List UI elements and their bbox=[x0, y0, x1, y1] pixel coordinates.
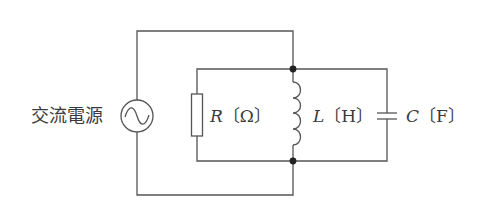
capacitor-symbol: C bbox=[406, 106, 419, 126]
junction-dot-top bbox=[290, 66, 297, 73]
outer-wire-bottom bbox=[137, 132, 293, 195]
resistor-icon bbox=[192, 94, 203, 136]
circuit-diagram: 交流電源 R〔Ω〕 L〔H〕 C〔F〕 bbox=[0, 0, 479, 210]
capacitor-unit: 〔F〕 bbox=[419, 106, 465, 126]
ac-source-label: 交流電源 bbox=[31, 106, 103, 126]
resistor-unit: 〔Ω〕 bbox=[223, 106, 271, 126]
inductor-icon bbox=[293, 69, 301, 161]
resistor-symbol: R bbox=[210, 106, 223, 126]
capacitor-label: C〔F〕 bbox=[406, 106, 465, 126]
inductor-symbol: L bbox=[313, 106, 324, 126]
inductor-label: L〔H〕 bbox=[313, 106, 373, 126]
capacitor-icon bbox=[377, 113, 397, 119]
ac-source-icon bbox=[121, 100, 153, 132]
inductor-unit: 〔H〕 bbox=[324, 106, 373, 126]
outer-wire-top bbox=[137, 31, 293, 100]
junction-dot-bottom bbox=[290, 158, 297, 165]
resistor-label: R〔Ω〕 bbox=[210, 106, 271, 126]
